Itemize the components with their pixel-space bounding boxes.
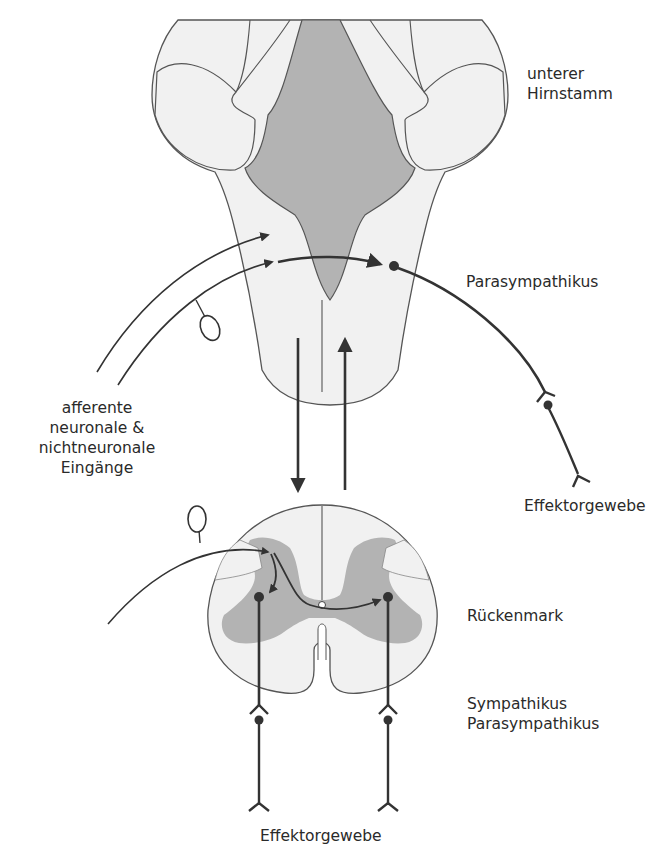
label-afferent-inputs: afferente neuronale & nichtneuronale Ein…: [22, 398, 172, 478]
left-synapse: [250, 705, 268, 714]
postganglionic-fiber: [548, 407, 578, 474]
label-spinal-cord: Rückenmark: [467, 606, 563, 626]
right-effector-terminal: [378, 803, 398, 811]
ganglion-cell-top: [196, 312, 223, 343]
parasympathetic-nucleus: [389, 261, 399, 271]
label-afferent-line2: neuronale &: [22, 418, 172, 438]
brainstem-parasympathetic-efferent: [389, 261, 590, 487]
label-sympathetic: Sympathikus: [467, 694, 599, 714]
ventral-fissure: [318, 624, 326, 660]
label-effector-right: Effektorgewebe: [524, 496, 646, 516]
label-effector-bottom: Effektorgewebe: [260, 826, 382, 846]
ganglion-stalk: [196, 300, 205, 317]
label-afferent-line4: Eingänge: [22, 458, 172, 478]
right-synapse: [379, 705, 397, 714]
effector-terminal: [573, 476, 590, 487]
label-autonomic: Sympathikus Parasympathikus: [467, 694, 599, 734]
left-effector-terminal: [249, 803, 269, 811]
synapse-terminal: [537, 392, 555, 402]
label-afferent-line1: afferente: [22, 398, 172, 418]
label-parasympathetic-bottom: Parasympathikus: [467, 714, 599, 734]
label-lower-brainstem-line1: unterer: [527, 64, 613, 84]
brainstem: [152, 20, 508, 405]
label-lower-brainstem-line2: Hirnstamm: [527, 84, 613, 104]
label-lower-brainstem: unterer Hirnstamm: [527, 64, 613, 104]
spinal-cord: [208, 505, 437, 693]
label-afferent-line3: nichtneuronale: [22, 438, 172, 458]
dorsal-root-ganglion: [188, 506, 206, 532]
label-parasympathetic-top: Parasympathikus: [466, 272, 598, 292]
